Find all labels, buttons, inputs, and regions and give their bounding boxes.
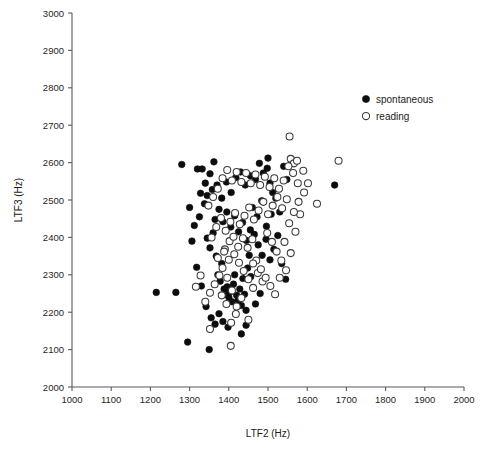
- data-point: [233, 303, 240, 310]
- data-point: [206, 346, 213, 353]
- data-point: [193, 264, 200, 271]
- data-point: [273, 248, 280, 255]
- data-point: [223, 300, 230, 307]
- data-point: [232, 311, 239, 318]
- data-point: [189, 238, 196, 245]
- data-point: [216, 272, 223, 279]
- data-point: [178, 161, 185, 168]
- data-point: [246, 204, 253, 211]
- data-point: [235, 259, 242, 266]
- data-point: [247, 180, 254, 187]
- data-point: [199, 166, 206, 173]
- data-point: [267, 257, 274, 264]
- data-point: [260, 198, 267, 205]
- data-point: [266, 183, 273, 190]
- data-point: [208, 315, 215, 322]
- data-point: [216, 310, 223, 317]
- legend-marker-reading: [362, 112, 369, 119]
- data-point: [249, 236, 256, 243]
- data-point: [285, 163, 292, 170]
- data-point: [259, 252, 266, 259]
- data-point: [153, 289, 160, 296]
- data-point: [290, 170, 297, 177]
- data-point: [207, 171, 214, 178]
- data-point: [196, 214, 203, 221]
- x-tick-label: 1500: [257, 394, 278, 405]
- data-point: [210, 194, 217, 201]
- data-point: [255, 207, 262, 214]
- data-point: [274, 194, 281, 201]
- data-point: [202, 180, 209, 187]
- data-point: [184, 339, 191, 346]
- y-tick-label: 2800: [43, 82, 64, 93]
- data-point: [269, 202, 276, 209]
- data-point: [230, 281, 237, 288]
- x-tick-label: 1200: [140, 394, 161, 405]
- legend-label-reading: reading: [376, 111, 409, 122]
- data-point: [257, 182, 264, 189]
- y-tick-label: 2400: [43, 232, 64, 243]
- data-point: [216, 206, 223, 213]
- data-point: [230, 233, 237, 240]
- y-axis: 2000210022002300240025002600270028002900…: [43, 8, 72, 393]
- y-axis-ticks: 2000210022002300240025002600270028002900…: [43, 8, 72, 393]
- x-tick-label: 1800: [375, 394, 396, 405]
- data-point: [186, 204, 193, 211]
- data-point: [294, 180, 301, 187]
- y-tick-label: 2000: [43, 382, 64, 393]
- data-point: [275, 185, 282, 192]
- data-point: [221, 248, 228, 255]
- data-point: [206, 326, 213, 333]
- data-point: [245, 276, 252, 283]
- data-point: [281, 238, 288, 245]
- y-tick-label: 2200: [43, 307, 64, 318]
- data-point: [211, 281, 218, 288]
- data-point: [265, 155, 272, 162]
- y-tick-label: 3000: [43, 8, 64, 19]
- data-point: [206, 289, 213, 296]
- data-point: [250, 284, 257, 291]
- data-point: [287, 250, 294, 257]
- y-tick-label: 2300: [43, 269, 64, 280]
- data-point: [263, 223, 270, 230]
- data-point: [292, 228, 299, 235]
- scatter-plot-figure: 2000210022002300240025002600270028002900…: [0, 0, 483, 450]
- data-point: [213, 223, 220, 230]
- data-point: [250, 260, 257, 267]
- data-point: [300, 167, 307, 174]
- y-tick-label: 2500: [43, 195, 64, 206]
- data-point: [214, 185, 221, 192]
- x-tick-label: 1400: [218, 394, 239, 405]
- data-point: [247, 227, 254, 234]
- x-axis-ticks: 1000110012001300140015001600170018001900…: [61, 387, 474, 405]
- data-point: [191, 222, 198, 229]
- data-point: [205, 202, 212, 209]
- data-point: [276, 274, 283, 281]
- data-point: [257, 266, 264, 273]
- data-point: [244, 244, 251, 251]
- data-point: [233, 168, 240, 175]
- data-point: [238, 294, 245, 301]
- data-point: [304, 180, 311, 187]
- plot-canvas: 2000210022002300240025002600270028002900…: [0, 0, 483, 450]
- data-point: [314, 200, 321, 207]
- data-point: [236, 286, 243, 293]
- data-point: [279, 205, 286, 212]
- data-point: [241, 212, 248, 219]
- data-point: [217, 214, 224, 221]
- data-point: [257, 290, 264, 297]
- data-point: [252, 171, 259, 178]
- data-point: [238, 179, 245, 186]
- legend-marker-spontaneous: [362, 95, 369, 102]
- data-point: [222, 227, 229, 234]
- data-point: [278, 257, 285, 264]
- data-point: [197, 190, 204, 197]
- y-tick-label: 2900: [43, 45, 64, 56]
- data-point: [267, 283, 274, 290]
- legend: spontaneous reading: [362, 94, 433, 122]
- data-point: [227, 218, 234, 225]
- data-point: [290, 208, 297, 215]
- data-point: [286, 220, 293, 227]
- data-point: [275, 232, 282, 239]
- data-point: [207, 245, 214, 252]
